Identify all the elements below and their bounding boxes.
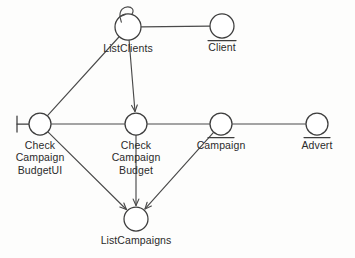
node-layer (17, 7, 330, 231)
edge-listClients-to-client (141, 26, 209, 27)
robustness-diagram-canvas: ListClientsClientCheck Campaign BudgetUI… (0, 0, 355, 258)
edge-listClients-to-checkCampaignBudget (129, 40, 135, 111)
node-circle-advert[interactable] (306, 113, 328, 135)
edge-checkCampaignBudgetUI-to-listCampaigns (48, 132, 126, 209)
node-circle-checkCampaignBudgetUI[interactable] (29, 113, 51, 135)
diagram-svg (0, 0, 355, 258)
node-advert[interactable] (304, 113, 330, 138)
edge-campaign-to-listCampaigns (145, 133, 213, 209)
node-listCampaigns[interactable] (124, 207, 148, 231)
edge-checkCampaignBudgetUI-to-listClients (48, 37, 119, 115)
node-checkCampaignBudgetUI[interactable] (17, 113, 51, 135)
node-circle-campaign[interactable] (210, 113, 232, 135)
node-circle-client[interactable] (210, 14, 234, 38)
node-circle-listCampaigns[interactable] (124, 207, 148, 231)
node-checkCampaignBudget[interactable] (125, 113, 147, 135)
node-client[interactable] (208, 14, 236, 41)
edge-layer (48, 26, 306, 209)
node-circle-checkCampaignBudget[interactable] (125, 113, 147, 135)
node-circle-listClients[interactable] (115, 14, 141, 40)
node-listClients[interactable] (115, 7, 141, 40)
